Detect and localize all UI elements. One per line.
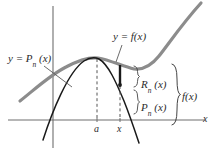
brace-polynomial (134, 90, 140, 114)
axis-tick-label-x: x (117, 124, 121, 134)
label-y-equals-pn-of-x: y = Pn (x) (8, 53, 51, 67)
leader-line-f-of-x (116, 45, 122, 62)
label-polynomial-pn-of-x: Pn (x) (141, 102, 166, 116)
axis-tick-label-a: a (94, 124, 99, 134)
label-y-equals-f-of-x: y = f(x) (113, 31, 146, 42)
label-total-f-of-x: f(x) (182, 91, 197, 102)
label-remainder-rn-of-x: Rn (x) (141, 79, 166, 93)
brace-total-f (172, 64, 181, 125)
x-axis-label: x (203, 114, 207, 124)
figure-canvas (0, 0, 216, 153)
leader-line-p-n-of-x (44, 66, 72, 87)
taylor-approximation-figure: y = Pn (x) y = f(x) Rn (x) Pn (x) f(x) a… (0, 0, 216, 153)
point-on-p-curve (118, 83, 122, 87)
